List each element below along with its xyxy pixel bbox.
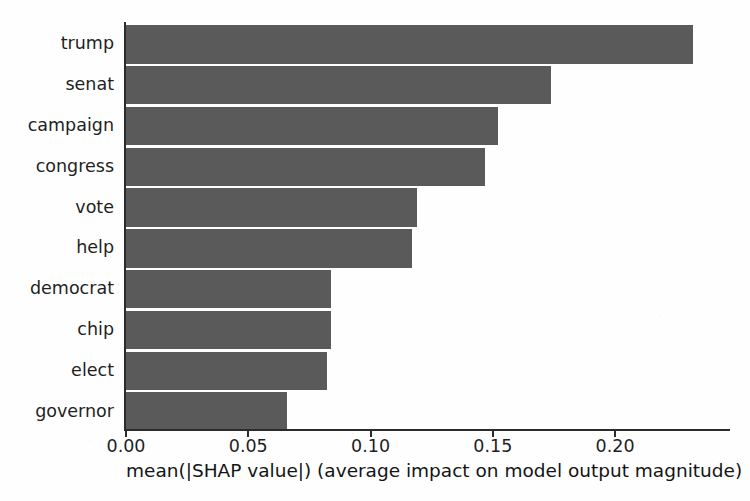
x-tick-label-0.00: 0.00 bbox=[107, 438, 146, 456]
x-axis-spine bbox=[124, 429, 730, 431]
bar-row bbox=[126, 148, 730, 187]
y-tick-label-trump: trump bbox=[0, 35, 114, 53]
y-tick-label-congress: congress bbox=[0, 158, 114, 176]
bar-row bbox=[126, 311, 730, 350]
bar-row bbox=[126, 66, 730, 105]
bar-row bbox=[126, 107, 730, 146]
bar-row bbox=[126, 352, 730, 391]
y-tick-label-chip: chip bbox=[0, 321, 114, 339]
x-tick-label-0.20: 0.20 bbox=[596, 438, 635, 456]
y-axis-tick-labels: trumpsenatcampaigncongressvotehelpdemocr… bbox=[0, 22, 114, 430]
x-tick-label-0.05: 0.05 bbox=[229, 438, 268, 456]
y-axis-spine bbox=[124, 22, 126, 431]
x-tick-label-0.10: 0.10 bbox=[351, 438, 390, 456]
bar-row bbox=[126, 392, 730, 431]
bar-elect bbox=[126, 352, 327, 391]
y-tick-label-governor: governor bbox=[0, 403, 114, 421]
bar-trump bbox=[126, 25, 693, 64]
y-tick-label-senat: senat bbox=[0, 76, 114, 94]
x-tick-label-0.15: 0.15 bbox=[473, 438, 512, 456]
bar-campaign bbox=[126, 107, 498, 146]
y-tick-label-campaign: campaign bbox=[0, 117, 114, 135]
bar-governor bbox=[126, 392, 287, 431]
bar-vote bbox=[126, 188, 417, 227]
y-tick-label-democrat: democrat bbox=[0, 280, 114, 298]
bar-senat bbox=[126, 66, 551, 105]
y-tick-label-elect: elect bbox=[0, 362, 114, 380]
bar-chip bbox=[126, 311, 331, 350]
bar-row bbox=[126, 270, 730, 309]
shap-feature-importance-figure: trumpsenatcampaigncongressvotehelpdemocr… bbox=[0, 0, 750, 501]
bar-row bbox=[126, 229, 730, 268]
bar-row bbox=[126, 188, 730, 227]
y-tick-label-vote: vote bbox=[0, 199, 114, 217]
bar-congress bbox=[126, 148, 485, 187]
plot-area bbox=[126, 22, 730, 430]
x-axis-title: mean(|SHAP value|) (average impact on mo… bbox=[126, 462, 730, 481]
bar-democrat bbox=[126, 270, 331, 309]
bar-help bbox=[126, 229, 412, 268]
y-tick-label-help: help bbox=[0, 239, 114, 257]
bar-row bbox=[126, 25, 730, 64]
